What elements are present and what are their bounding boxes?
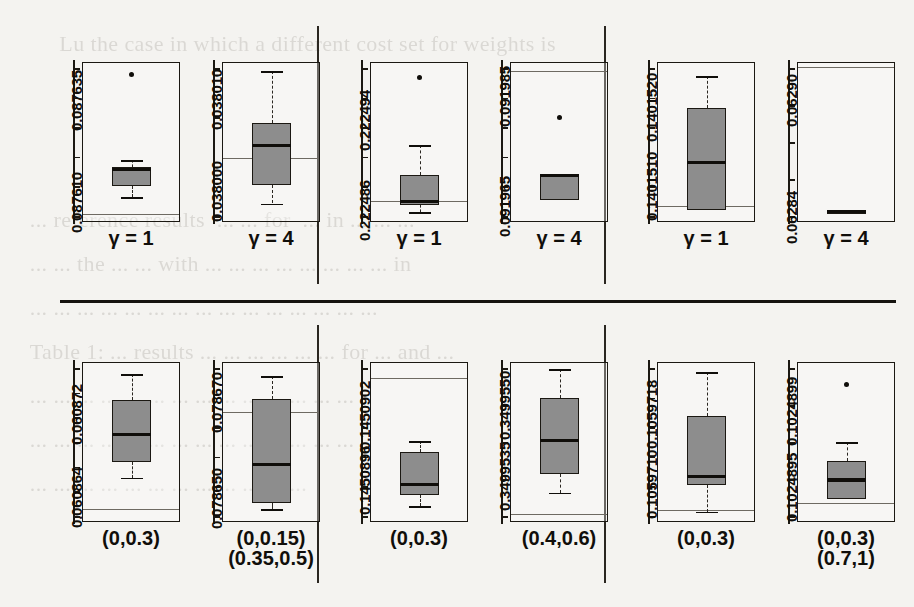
whisker-cap-upper: [696, 372, 718, 374]
whisker-cap-lower: [261, 204, 283, 206]
y-axis-tick: [788, 142, 795, 144]
whisker-upper: [420, 145, 421, 174]
whisker-cap-upper: [261, 71, 283, 73]
reference-line: [798, 503, 894, 504]
y-axis-tick-label: 0.3499550: [496, 370, 513, 439]
box: [400, 452, 439, 495]
y-axis-tick: [788, 68, 795, 70]
reference-line: [83, 509, 179, 510]
whisker-lower: [272, 185, 273, 203]
median-line: [400, 200, 439, 203]
y-axis-tick: [501, 157, 508, 159]
whisker-cap-lower: [121, 197, 143, 199]
median-line: [400, 483, 439, 486]
median-line: [252, 463, 291, 466]
y-axis-tick: [213, 457, 220, 459]
box: [687, 108, 726, 210]
whisker-lower: [707, 485, 708, 511]
y-axis-tick-label: 0.060864: [68, 467, 85, 528]
y-axis-tick-label: 0.1450902: [356, 381, 373, 450]
whisker-lower: [560, 474, 561, 493]
whisker-lower: [420, 205, 421, 212]
median-line: [687, 161, 726, 164]
y-axis-tick: [501, 516, 508, 518]
whisker-lower: [420, 495, 421, 506]
whisker-cap-upper: [121, 160, 143, 162]
y-axis-tick: [361, 68, 368, 70]
whisker-upper: [272, 71, 273, 123]
plot-frame: [797, 62, 895, 222]
y-axis-tick-label: 0.087610: [68, 172, 85, 233]
box: [252, 399, 291, 503]
y-axis-tick-label: 0.1024899: [783, 377, 800, 446]
y-axis-tick: [501, 127, 508, 129]
whisker-upper: [847, 442, 848, 461]
box: [540, 398, 579, 474]
y-axis-tick-label: 0.1401520: [643, 73, 660, 142]
y-axis-tick: [361, 368, 368, 370]
whisker-cap-lower: [549, 493, 571, 495]
x-axis-label: γ = 4: [476, 228, 642, 248]
box: [112, 400, 151, 462]
y-axis-tick-label: 0.222494: [356, 90, 373, 151]
whisker-upper: [707, 76, 708, 108]
x-axis-label-line: γ = 4: [763, 228, 914, 248]
x-axis-label: γ = 4: [188, 228, 354, 248]
whisker-upper: [132, 374, 133, 400]
median-line: [112, 168, 151, 171]
x-axis-label: γ = 4: [763, 228, 914, 248]
x-axis-label-line: (0.4,0.6): [476, 528, 642, 548]
whisker-lower: [132, 186, 133, 197]
reference-line: [511, 514, 607, 515]
y-axis-tick-label: 0.1059718: [643, 380, 660, 449]
whisker-cap-upper: [409, 145, 431, 147]
whisker-cap-lower: [261, 509, 283, 511]
y-axis-tick-label: 0.3499535: [496, 442, 513, 511]
median-line: [827, 478, 866, 481]
reference-line: [371, 378, 467, 379]
x-axis-label-line: γ = 4: [476, 228, 642, 248]
row-separator-rule: [60, 300, 896, 303]
x-axis-label: (0,0.15)(0.35,0.5): [188, 528, 354, 569]
y-axis-tick-label: 0.078670: [208, 372, 225, 433]
y-axis-tick: [213, 368, 220, 370]
whisker-upper: [707, 372, 708, 415]
median-line: [827, 210, 866, 213]
y-axis-tick-label: 0.1059710: [643, 450, 660, 519]
x-axis-label-line: (0,0.15): [188, 528, 354, 548]
reference-line: [83, 214, 179, 215]
whisker-lower: [132, 462, 133, 477]
y-axis-tick: [73, 368, 80, 370]
y-axis-tick: [361, 516, 368, 518]
y-axis-tick: [788, 179, 795, 181]
whisker-cap-lower: [409, 506, 431, 508]
outlier-point: [129, 72, 134, 77]
whisker-cap-lower: [409, 212, 431, 214]
whisker-cap-upper: [836, 442, 858, 444]
whisker-cap-lower: [696, 512, 718, 514]
x-axis-label: (0,0.3)(0.7,1): [763, 528, 914, 569]
x-axis-label-line: γ = 4: [188, 228, 354, 248]
y-axis-tick-label: 0.087635: [68, 70, 85, 131]
y-axis-tick-label: 0.1450896: [356, 446, 373, 515]
y-axis-tick-label: 0.1024895: [783, 453, 800, 522]
median-line: [252, 144, 291, 147]
y-axis-tick-label: 0.06290: [783, 74, 800, 127]
whisker-upper: [560, 369, 561, 397]
y-axis-tick-label: 0.091985: [496, 66, 513, 127]
box: [540, 174, 579, 200]
reference-line: [511, 71, 607, 72]
x-axis-label-line: (0.7,1): [763, 548, 914, 568]
boxplot-figure: 0.0876100.087635γ = 10.0380000.038010γ =…: [0, 0, 914, 607]
y-axis-tick: [648, 68, 655, 70]
y-axis-tick: [501, 368, 508, 370]
whisker-cap-upper: [696, 76, 718, 78]
whisker-cap-upper: [549, 369, 571, 371]
whisker-cap-upper: [261, 376, 283, 378]
whisker-cap-upper: [409, 441, 431, 443]
median-line: [687, 475, 726, 478]
y-axis-tick: [648, 368, 655, 370]
median-line: [540, 439, 579, 442]
whisker-upper: [272, 376, 273, 399]
x-axis-label-line: (0,0.3): [763, 528, 914, 548]
